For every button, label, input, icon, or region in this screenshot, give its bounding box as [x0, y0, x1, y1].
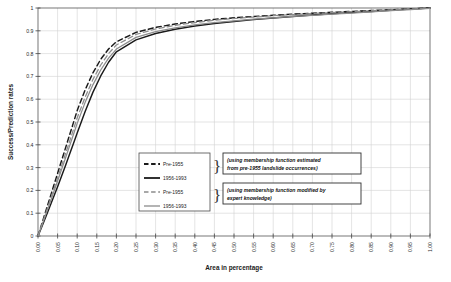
y-tick-label: 0.3	[26, 165, 33, 171]
brace-expert: }	[213, 186, 221, 205]
success-prediction-rate-chart: 00.10.20.30.40.50.60.70.80.91 0.000.050.…	[0, 0, 451, 282]
x-tick-label: 0.35	[172, 242, 178, 252]
x-tick-label: 0.90	[388, 242, 394, 252]
y-tick-label: 0.9	[26, 28, 33, 34]
legend[interactable]: Pre-19551956-1993Pre-19551956-1993	[139, 153, 210, 211]
y-tick-label: 0.1	[26, 210, 33, 216]
x-tick-label: 0.00	[35, 242, 41, 252]
y-tick-label: 0.7	[26, 73, 33, 79]
x-tick-label: 0.40	[192, 242, 198, 252]
annotation-expert-line1: (using membership function modified by	[227, 187, 327, 193]
x-tick-label: 0.15	[94, 242, 100, 252]
y-tick-label: 0.8	[26, 51, 33, 57]
x-tick-label: 0.95	[407, 242, 413, 252]
brace-estimated: }	[213, 157, 221, 176]
x-tick-label: 1.00	[427, 242, 433, 252]
x-tick-label: 0.20	[113, 242, 119, 252]
y-tick-label: 0	[31, 233, 34, 239]
x-tick-label: 0.30	[153, 242, 159, 252]
x-tick-label: 0.10	[74, 242, 80, 252]
x-tick-label: 0.55	[251, 242, 257, 252]
chart-figure: 00.10.20.30.40.50.60.70.80.91 0.000.050.…	[0, 0, 451, 282]
x-axis-title: Area in percentage	[205, 264, 263, 272]
annotation-expert-line2: expert knowledge)	[227, 195, 272, 201]
x-tick-label: 0.50	[231, 242, 237, 252]
x-tick-label: 0.45	[211, 242, 217, 252]
y-tick-label: 0.2	[26, 187, 33, 193]
annotation-estimated-line2: from pre-1955 landslide occurrences)	[227, 165, 318, 171]
x-tick-label: 0.05	[55, 242, 61, 252]
legend-label-0: Pre-1955	[163, 162, 183, 167]
x-tick-label: 0.80	[349, 242, 355, 252]
legend-label-2: Pre-1955	[163, 190, 183, 195]
y-tick-label: 1	[31, 5, 34, 11]
annotation-box-estimated: (using membership function estimated fro…	[223, 153, 361, 174]
y-tick-label: 0.6	[26, 96, 33, 102]
annotation-box-expert: (using membership function modified by e…	[223, 183, 361, 204]
x-tick-label: 0.25	[133, 242, 139, 252]
x-tick-label: 0.60	[270, 242, 276, 252]
x-tick-label: 0.70	[309, 242, 315, 252]
y-tick-label: 0.5	[26, 119, 33, 125]
x-tick-label: 0.85	[368, 242, 374, 252]
annotation-estimated-line1: (using membership function estimated	[227, 157, 322, 163]
x-tick-label: 0.75	[329, 242, 335, 252]
y-tick-label: 0.4	[26, 142, 33, 148]
legend-label-3: 1956-1993	[163, 204, 187, 209]
x-tick-label: 0.65	[290, 242, 296, 252]
y-axis-title: Success/Prediction rates	[7, 84, 14, 160]
legend-label-1: 1956-1993	[163, 176, 187, 181]
